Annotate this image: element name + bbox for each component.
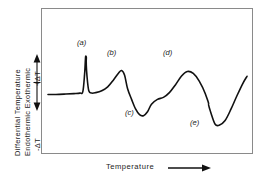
y-axis-label-line1: Differential Temperature: [13, 69, 22, 156]
y-axis-label-line2: Endothermic Exothermic: [23, 68, 32, 156]
plot-frame: [42, 9, 253, 154]
arrow-right-icon: [202, 164, 211, 171]
annotation-d: (d): [163, 48, 172, 57]
x-axis-label: Temperature: [106, 162, 154, 171]
dta-thermogram-figure: Differential Temperature Endothermic Exo…: [0, 0, 263, 181]
x-axis-direction-indicator: [168, 164, 211, 171]
annotation-e: (e): [190, 118, 199, 127]
annotation-b: (b): [107, 48, 116, 57]
annotation-a: (a): [77, 38, 86, 47]
annotation-c: (c): [125, 108, 134, 117]
y-axis-labels: Differential Temperature Endothermic Exo…: [4, 8, 40, 154]
dta-curve: [48, 56, 247, 126]
y-axis-positive-label: +ΔT: [33, 71, 42, 86]
y-axis-negative-label: -ΔT: [33, 138, 42, 151]
